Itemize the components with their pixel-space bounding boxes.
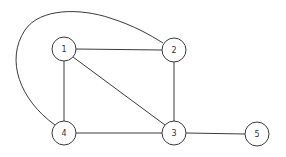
node-5: 5: [245, 122, 269, 146]
edge-3-5: [186, 133, 245, 134]
node-5-label: 5: [254, 130, 259, 139]
nodes-layer: 1 2 3 4 5: [52, 37, 269, 146]
edge-1-3: [73, 57, 165, 125]
node-3-label: 3: [171, 129, 176, 138]
node-2-label: 2: [171, 46, 176, 55]
node-1: 1: [52, 37, 76, 61]
node-4: 4: [52, 121, 76, 145]
edges-layer: [16, 12, 245, 134]
node-1-label: 1: [61, 45, 66, 54]
node-4-label: 4: [61, 129, 66, 138]
edge-4-2-curved: [16, 12, 163, 125]
edge-1-2: [76, 49, 162, 50]
node-3: 3: [162, 121, 186, 145]
graph-diagram: 1 2 3 4 5: [0, 0, 286, 157]
node-2: 2: [162, 38, 186, 62]
